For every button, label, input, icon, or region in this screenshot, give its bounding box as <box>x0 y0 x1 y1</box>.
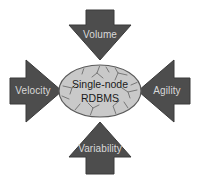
diagram-canvas: Volume Velocity Agility Variability <box>0 0 200 182</box>
arrow-variability-label: Variability <box>78 143 122 154</box>
core-label-line1: Single-node <box>72 78 128 90</box>
arrow-velocity-label: Velocity <box>15 85 50 96</box>
core-label-line2: RDBMS <box>81 92 119 104</box>
pressure-diagram: Volume Velocity Agility Variability <box>0 0 200 182</box>
arrow-agility-label: Agility <box>153 85 180 96</box>
core-node-single-node-rdbms[interactable]: Single-node RDBMS <box>59 65 141 117</box>
arrow-volume-label: Volume <box>83 29 117 40</box>
